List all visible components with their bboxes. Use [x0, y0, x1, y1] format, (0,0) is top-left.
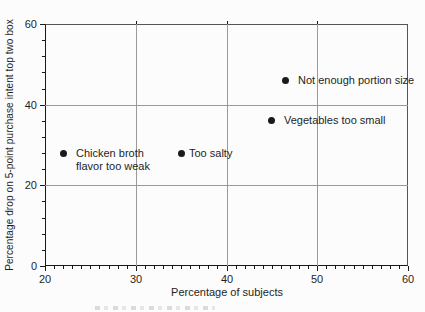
x-tick-label: 30 — [121, 273, 151, 285]
chart-container: Percentage drop on 5-point purchase inte… — [0, 0, 425, 312]
x-minor-tick — [90, 266, 91, 269]
y-gridline — [45, 105, 408, 106]
x-minor-tick — [254, 266, 255, 269]
x-minor-tick — [390, 266, 391, 269]
x-minor-tick — [272, 266, 273, 269]
x-minor-tick — [163, 266, 164, 269]
x-minor-tick — [145, 266, 146, 269]
y-major-tick — [40, 266, 45, 267]
y-minor-tick — [42, 89, 45, 90]
x-minor-tick — [99, 266, 100, 269]
x-gridline — [136, 24, 137, 266]
y-minor-tick — [42, 72, 45, 73]
x-minor-tick — [363, 266, 364, 269]
x-minor-tick — [236, 266, 237, 269]
y-gridline — [45, 185, 408, 186]
data-point — [268, 117, 275, 124]
x-top-tick — [136, 21, 137, 24]
y-major-tick — [40, 24, 45, 25]
y-minor-tick — [42, 250, 45, 251]
x-tick-label: 50 — [302, 273, 332, 285]
x-axis-title: Percentage of subjects — [171, 286, 283, 298]
x-minor-tick — [399, 266, 400, 269]
x-minor-tick — [290, 266, 291, 269]
x-minor-tick — [72, 266, 73, 269]
point-label: Chicken broth flavor too weak — [76, 147, 150, 173]
x-major-tick — [317, 266, 318, 271]
x-major-tick — [227, 266, 228, 271]
x-minor-tick — [172, 266, 173, 269]
x-minor-tick — [81, 266, 82, 269]
clipped-caption-remnant — [95, 306, 215, 310]
x-minor-tick — [63, 266, 64, 269]
point-label: Not enough portion size — [298, 74, 414, 87]
x-tick-label: 40 — [212, 273, 242, 285]
x-minor-tick — [326, 266, 327, 269]
x-tick-label: 20 — [30, 273, 60, 285]
y-minor-tick — [42, 40, 45, 41]
y-tick-label: 0 — [7, 260, 37, 272]
data-point — [60, 150, 67, 157]
x-major-tick — [408, 266, 409, 271]
x-major-tick — [136, 266, 137, 271]
point-label: Vegetables too small — [284, 114, 386, 127]
y-minor-tick — [42, 153, 45, 154]
x-tick-label: 60 — [393, 273, 423, 285]
x-minor-tick — [190, 266, 191, 269]
x-minor-tick — [335, 266, 336, 269]
y-tick-label: 40 — [7, 99, 37, 111]
x-top-tick — [227, 21, 228, 24]
x-minor-tick — [118, 266, 119, 269]
x-minor-tick — [344, 266, 345, 269]
data-point — [178, 150, 185, 157]
y-tick-label: 60 — [7, 18, 37, 30]
x-minor-tick — [181, 266, 182, 269]
x-major-tick — [45, 266, 46, 271]
y-minor-tick — [42, 121, 45, 122]
x-minor-tick — [354, 266, 355, 269]
y-minor-tick — [42, 201, 45, 202]
y-minor-tick — [42, 234, 45, 235]
x-gridline — [227, 24, 228, 266]
data-point — [282, 77, 289, 84]
point-label: Too salty — [189, 147, 232, 160]
x-minor-tick — [199, 266, 200, 269]
x-minor-tick — [245, 266, 246, 269]
x-minor-tick — [54, 266, 55, 269]
x-minor-tick — [308, 266, 309, 269]
y-axis-title: Percentage drop on 5-point purchase inte… — [4, 19, 15, 271]
x-minor-tick — [208, 266, 209, 269]
y-minor-tick — [42, 169, 45, 170]
y-tick-label: 20 — [7, 179, 37, 191]
x-minor-tick — [281, 266, 282, 269]
y-minor-tick — [42, 218, 45, 219]
x-minor-tick — [154, 266, 155, 269]
x-top-tick — [317, 21, 318, 24]
x-gridline — [317, 24, 318, 266]
x-minor-tick — [299, 266, 300, 269]
x-minor-tick — [127, 266, 128, 269]
x-minor-tick — [381, 266, 382, 269]
x-minor-tick — [263, 266, 264, 269]
y-minor-tick — [42, 56, 45, 57]
y-minor-tick — [42, 137, 45, 138]
y-major-tick — [40, 185, 45, 186]
y-major-tick — [40, 105, 45, 106]
x-minor-tick — [372, 266, 373, 269]
x-minor-tick — [217, 266, 218, 269]
x-minor-tick — [109, 266, 110, 269]
